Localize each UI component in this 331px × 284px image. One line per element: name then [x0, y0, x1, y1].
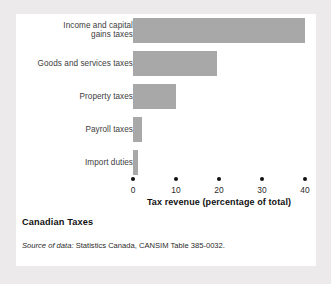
bar-track	[133, 150, 305, 175]
bar	[133, 18, 305, 43]
x-axis-tick-dot	[131, 177, 135, 181]
x-axis-title: Tax revenue (percentage of total)	[133, 197, 305, 207]
bar-row: Import duties	[16, 150, 316, 175]
x-axis-tick-label: 40	[300, 185, 309, 195]
bar-category-label-line: gains taxes	[21, 31, 133, 41]
bar	[133, 150, 138, 175]
chart-x-axis: Tax revenue (percentage of total) 010203…	[16, 177, 316, 211]
bar-track	[133, 18, 305, 43]
x-axis-tick-label: 10	[171, 185, 180, 195]
bar-category-label: Goods and services taxes	[21, 59, 133, 69]
bar-category-label: Property taxes	[21, 92, 133, 102]
bar-category-label: Income and capitalgains taxes	[21, 21, 133, 40]
bar	[133, 117, 142, 142]
source-prefix: Source of data:	[22, 241, 74, 250]
x-axis-tick-label: 20	[214, 185, 223, 195]
x-axis-tick-dot	[303, 177, 307, 181]
chart-plot-area: Income and capitalgains taxesGoods and s…	[16, 14, 316, 174]
bar-row: Property taxes	[16, 84, 316, 109]
page-top-bleed	[0, 0, 331, 14]
x-axis-tick-dot	[174, 177, 178, 181]
bar-category-label-line: Import duties	[21, 158, 133, 168]
bar	[133, 51, 217, 76]
bar-category-label-line: Property taxes	[21, 92, 133, 102]
bar-category-label: Import duties	[21, 158, 133, 168]
x-axis-tick-label: 30	[257, 185, 266, 195]
bar-row: Income and capitalgains taxes	[16, 18, 316, 43]
bar-category-label-line: Goods and services taxes	[21, 59, 133, 69]
source-text: Statistics Canada, CANSIM Table 385-0032…	[76, 241, 225, 250]
bar-category-label-line: Income and capital	[21, 21, 133, 31]
bar-track	[133, 51, 305, 76]
bar	[133, 84, 176, 109]
bar-track	[133, 117, 305, 142]
x-axis-tick-dot	[260, 177, 264, 181]
bar-category-label-line: Payroll taxes	[21, 125, 133, 135]
bar-row: Payroll taxes	[16, 117, 316, 142]
x-axis-tick-dot	[217, 177, 221, 181]
bar-track	[133, 84, 305, 109]
bar-category-label: Payroll taxes	[21, 125, 133, 135]
figure-source-note: Source of data: Statistics Canada, CANSI…	[22, 241, 225, 250]
bar-row: Goods and services taxes	[16, 51, 316, 76]
figure-caption-title: Canadian Taxes	[22, 217, 93, 227]
figure-panel: Income and capitalgains taxesGoods and s…	[16, 14, 316, 266]
x-axis-tick-label: 0	[131, 185, 136, 195]
